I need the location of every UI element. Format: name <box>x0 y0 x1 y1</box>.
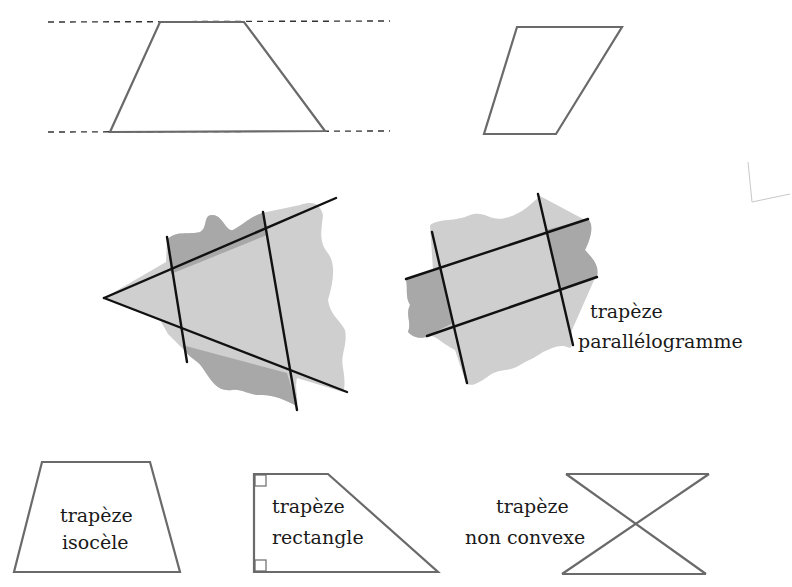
crossed-trapezoid: trapèze non convexe <box>465 474 709 574</box>
label-line2: rectangle <box>272 526 364 548</box>
label-line1: trapèze <box>272 495 345 517</box>
parallelogram <box>484 27 622 134</box>
isosceles-trapezoid: trapèze isocèle <box>14 462 180 572</box>
trapezoid-shape <box>110 22 325 132</box>
right-trapezoid: trapèze rectangle <box>254 474 438 572</box>
crossed-diagonal-2 <box>562 474 709 574</box>
parallelogram-shape <box>484 27 622 134</box>
label-trapeze-parallelogramme: trapèze parallélogramme <box>578 300 743 352</box>
label-line1: trapèze <box>590 300 663 322</box>
label-line1: trapèze <box>496 495 569 517</box>
trapezoid-diagram: trapèze parallélogramme trapèze isocèle … <box>0 0 792 587</box>
right-trapezoid-shape <box>254 474 438 572</box>
trapezoid-between-parallels <box>48 21 390 132</box>
label-line2: isocèle <box>62 531 128 553</box>
parallelogram-cut-figure <box>406 194 598 385</box>
scan-mark <box>748 162 790 202</box>
label-line2: parallélogramme <box>578 330 743 352</box>
label-line2: non convexe <box>465 526 585 548</box>
label-line1: trapèze <box>60 504 133 526</box>
triangle-cut-figure <box>104 198 347 410</box>
